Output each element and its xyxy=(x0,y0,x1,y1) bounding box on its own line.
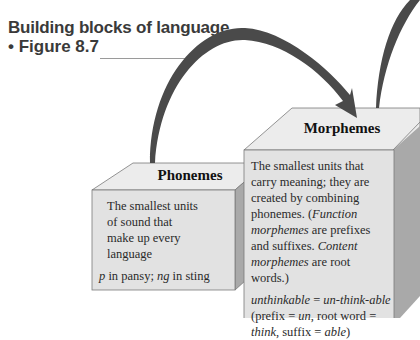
prefix: un xyxy=(298,309,311,323)
example-word: unthinkable xyxy=(251,293,310,307)
example-text: , root word = xyxy=(311,309,376,323)
example-eq: = xyxy=(310,293,323,307)
morphemes-body: The smallest units that carry meaning; t… xyxy=(251,158,391,340)
example-text: in pansy; xyxy=(105,269,157,283)
morphemes-description: The smallest units that carry meaning; t… xyxy=(251,158,391,286)
suffix: able xyxy=(325,325,347,339)
phonemes-body: The smallest units of sound that make up… xyxy=(107,198,232,284)
root-word: think xyxy=(251,325,276,339)
phonemes-heading: Phonemes xyxy=(140,167,240,184)
phoneme-ng: ng xyxy=(157,269,170,283)
morphemes-example: unthinkable = un-think-able (prefix = un… xyxy=(251,292,391,340)
example-text: ) xyxy=(346,325,350,339)
phonemes-description: The smallest units of sound that make up… xyxy=(107,198,202,262)
morphemes-heading: Morphemes xyxy=(292,120,392,137)
example-text: in sting xyxy=(169,269,209,283)
example-text: , suffix = xyxy=(276,325,325,339)
example-split: un-think-able xyxy=(323,293,390,307)
phonemes-example: p in pansy; ng in sting xyxy=(99,268,232,284)
arrow-continuation-icon xyxy=(376,0,420,108)
example-text: (prefix = xyxy=(251,309,298,323)
